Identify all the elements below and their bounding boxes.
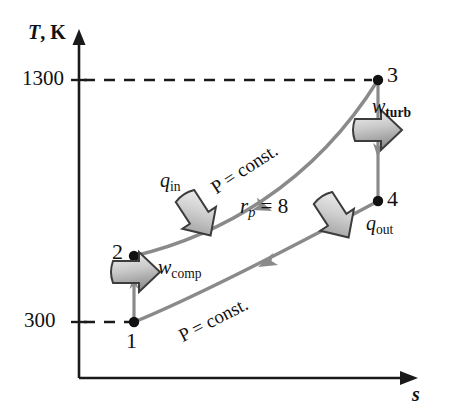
y-axis-label-variable: T [28,21,40,43]
pressure-ratio-label: rp = 8 [240,196,288,219]
y-tick-label-1300: 1300 [22,68,64,89]
y-tick-label-300: 300 [24,310,56,331]
q-in-label: qin [160,170,181,193]
state-label-3: 3 [387,64,398,86]
state-point-3 [373,75,383,85]
q-out-arrow [305,185,365,248]
ts-diagram-figure: T, K 1300 300 1 2 3 4 qin wturb wcomp qo… [0,0,456,412]
state-label-4: 4 [387,188,398,210]
w-comp-subscript: comp [171,266,201,281]
x-axis-label: s [412,384,420,404]
y-axis-label-unit: , K [40,21,66,43]
y-axis [73,29,86,378]
x-axis [79,371,418,385]
w-turb-variable: w [372,95,385,117]
w-comp-variable: w [158,256,171,278]
w-turb-label: wturb [372,96,411,119]
state-point-2 [129,251,139,261]
q-out-subscript: out [376,222,393,237]
q-out-variable: q [366,212,376,234]
w-turb-subscript: turb [385,105,411,120]
state-point-4 [373,196,383,206]
q-in-subscript: in [170,179,181,194]
q-in-variable: q [160,169,170,191]
y-axis-label: T, K [28,22,66,42]
pressure-ratio-value: = 8 [255,194,288,218]
state-label-2: 2 [112,241,123,263]
state-label-1: 1 [126,330,137,352]
state-point-1 [129,317,139,327]
w-comp-label: wcomp [158,257,202,280]
pressure-ratio-variable: r [240,194,248,218]
q-out-label: qout [366,213,393,236]
